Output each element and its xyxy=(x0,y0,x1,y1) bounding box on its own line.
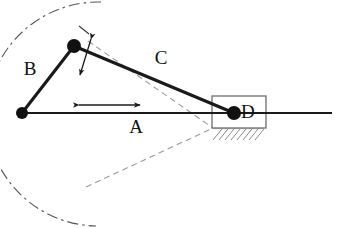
link-b-crank xyxy=(22,46,74,113)
label-link-c: C xyxy=(155,47,168,68)
arrow-crank-motion xyxy=(80,39,91,75)
dashed-alt-link-lower xyxy=(86,128,213,187)
joint-crank-coupler xyxy=(67,39,81,53)
diagram-canvas: A B C D xyxy=(0,0,338,228)
mechanism-diagram: A B C D xyxy=(0,0,338,228)
label-link-b: B xyxy=(24,58,37,79)
label-joint-d: D xyxy=(241,101,255,122)
label-link-a: A xyxy=(129,116,143,137)
dashed-alt-link-upper xyxy=(88,41,213,128)
arc-tick-mark xyxy=(79,26,89,34)
joint-d-slider xyxy=(227,106,241,120)
ground-hatching xyxy=(212,129,264,140)
joint-ground-pivot xyxy=(16,107,28,119)
